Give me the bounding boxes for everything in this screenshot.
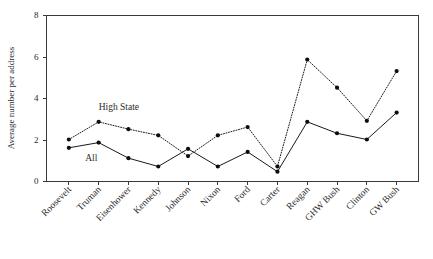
- data-point: [365, 119, 369, 123]
- data-point: [186, 147, 190, 151]
- y-tick-label: 4: [34, 93, 39, 103]
- x-tick-label: Carter: [258, 184, 282, 208]
- series-line: [69, 60, 397, 167]
- data-point: [126, 156, 130, 160]
- series-group: [67, 58, 399, 174]
- data-point: [365, 137, 369, 141]
- x-axis-labels: RooseveltTrumanEisenhowerKennedyJohnsonN…: [39, 184, 401, 223]
- plot-frame: [47, 15, 420, 182]
- data-point: [246, 150, 250, 154]
- y-tick-label: 0: [34, 176, 39, 186]
- y-axis-title: Average number per address: [6, 46, 16, 149]
- series-annotation-label: High State: [99, 102, 139, 112]
- data-point: [275, 164, 279, 168]
- x-tick-label: Truman: [75, 184, 103, 212]
- data-point: [67, 146, 71, 150]
- data-point: [335, 131, 339, 135]
- x-tick-label: Kennedy: [131, 184, 162, 215]
- data-point: [216, 133, 220, 137]
- x-tick-label: Johnson: [163, 184, 192, 213]
- chart-container: 02468 Average number per address High St…: [0, 0, 433, 259]
- data-point: [156, 133, 160, 137]
- line-chart: 02468 Average number per address High St…: [0, 0, 433, 259]
- data-point: [246, 125, 250, 129]
- x-tick-label: Clinton: [344, 184, 371, 211]
- y-tick-label: 6: [34, 52, 39, 62]
- data-point: [335, 86, 339, 90]
- data-point: [305, 120, 309, 124]
- x-tick-label: Nixon: [198, 184, 222, 208]
- data-point: [67, 137, 71, 141]
- data-point: [156, 164, 160, 168]
- x-tick-label: Roosevelt: [39, 184, 73, 218]
- data-point: [216, 164, 220, 168]
- x-tick-label: Reagan: [284, 184, 311, 211]
- data-point: [97, 141, 101, 145]
- y-tick-label: 8: [34, 10, 39, 20]
- x-tick-label: Ford: [232, 184, 252, 204]
- series-annotation-label: All: [85, 153, 98, 163]
- data-point: [305, 58, 309, 62]
- y-axis-ticks: 02468: [34, 10, 47, 186]
- data-point: [126, 127, 130, 131]
- x-tick-label: GW Bush: [367, 184, 401, 218]
- data-point: [275, 170, 279, 174]
- series-line: [69, 113, 397, 172]
- data-point: [395, 69, 399, 73]
- data-point: [186, 154, 190, 158]
- data-point: [395, 110, 399, 114]
- y-tick-label: 2: [34, 135, 39, 145]
- data-point: [97, 120, 101, 124]
- series-annotations: High StateAll: [85, 102, 139, 163]
